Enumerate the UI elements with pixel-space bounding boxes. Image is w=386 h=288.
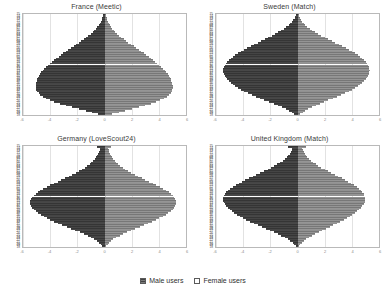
pyramid-row [23,113,186,115]
panel-title-united-kingdom: United Kingdom (Match) [193,134,386,143]
chart-page: France (Meetic) 757473727170696867666564… [0,0,386,288]
y-axis-labels-united-kingdom: 7574737271706968676665646362616059585756… [199,145,214,248]
plot-area-sweden [215,13,380,116]
x-tick-label: -4 [48,117,52,122]
panel-united-kingdom: United Kingdom (Match) 75747372717069686… [193,132,386,264]
x-axis-labels-france: -6-4-20246 [22,116,187,126]
bars-united-kingdom [216,146,379,247]
pyramid-row [23,245,186,247]
x-tick-label: 0 [296,249,298,254]
x-axis-labels-sweden: -6-4-20246 [215,116,380,126]
x-tick-label: 6 [186,249,188,254]
x-tick-label: -4 [241,249,245,254]
panel-title-france: France (Meetic) [0,2,193,11]
legend-item-female: Female users [194,277,245,284]
y-axis-labels-france: 7574737271706968676665646362616059585756… [6,13,21,116]
x-axis-labels-united-kingdom: -6-4-20246 [215,248,380,258]
y-axis-labels-germany: 7574737271706968676665646362616059585756… [6,145,21,248]
x-axis-labels-germany: -6-4-20246 [22,248,187,258]
x-tick-label: 6 [186,117,188,122]
plot-box-sweden [215,13,380,116]
legend-label-female: Female users [203,277,245,284]
bars-germany [23,146,186,247]
bar-female [105,113,113,115]
bar-female [298,245,300,247]
x-tick-label: 2 [131,249,133,254]
x-gridline [186,14,187,115]
plot-box-france [22,13,187,116]
bars-france [23,14,186,115]
x-tick-label: -6 [213,117,217,122]
plot-area-france [22,13,187,116]
bar-female [105,245,107,247]
panel-title-germany: Germany (LoveScout24) [0,134,193,143]
panel-sweden: Sweden (Match) 7574737271706968676665646… [193,0,386,132]
x-tick-label: 4 [351,117,353,122]
x-tick-label: -6 [213,249,217,254]
x-tick-label: 0 [103,249,105,254]
legend-label-male: Male users [149,277,183,284]
panel-title-sweden: Sweden (Match) [193,2,386,11]
legend-item-male: Male users [140,277,183,284]
x-gridline [186,146,187,247]
x-tick-label: 2 [324,117,326,122]
x-tick-label: 0 [103,117,105,122]
legend-swatch-female-icon [194,278,200,284]
panel-germany: Germany (LoveScout24) 757473727170696867… [0,132,193,264]
x-tick-label: 6 [379,249,381,254]
x-tick-label: 2 [324,249,326,254]
x-tick-label: -6 [20,117,24,122]
x-tick-label: -4 [241,117,245,122]
x-tick-label: -2 [75,117,79,122]
x-tick-label: 0 [296,117,298,122]
x-tick-label: -2 [268,249,272,254]
bar-female [298,113,301,115]
x-gridline [379,14,380,115]
plot-box-germany [22,145,187,248]
x-tick-label: 4 [158,117,160,122]
x-tick-label: -6 [20,249,24,254]
y-axis-labels-sweden: 7574737271706968676665646362616059585756… [199,13,214,116]
x-tick-label: 4 [158,249,160,254]
pyramid-chart-grid: France (Meetic) 757473727170696867666564… [0,0,386,264]
x-tick-label: -2 [268,117,272,122]
plot-area-germany [22,145,187,248]
plot-area-united-kingdom [215,145,380,248]
x-tick-label: 4 [351,249,353,254]
plot-box-united-kingdom [215,145,380,248]
x-tick-label: -2 [75,249,79,254]
chart-legend: Male users Female users [0,277,386,284]
x-tick-label: -4 [48,249,52,254]
pyramid-row [216,245,379,247]
legend-swatch-male-icon [140,278,146,284]
bars-sweden [216,14,379,115]
x-tick-label: 2 [131,117,133,122]
pyramid-row [216,113,379,115]
panel-france: France (Meetic) 757473727170696867666564… [0,0,193,132]
x-gridline [379,146,380,247]
x-tick-label: 6 [379,117,381,122]
